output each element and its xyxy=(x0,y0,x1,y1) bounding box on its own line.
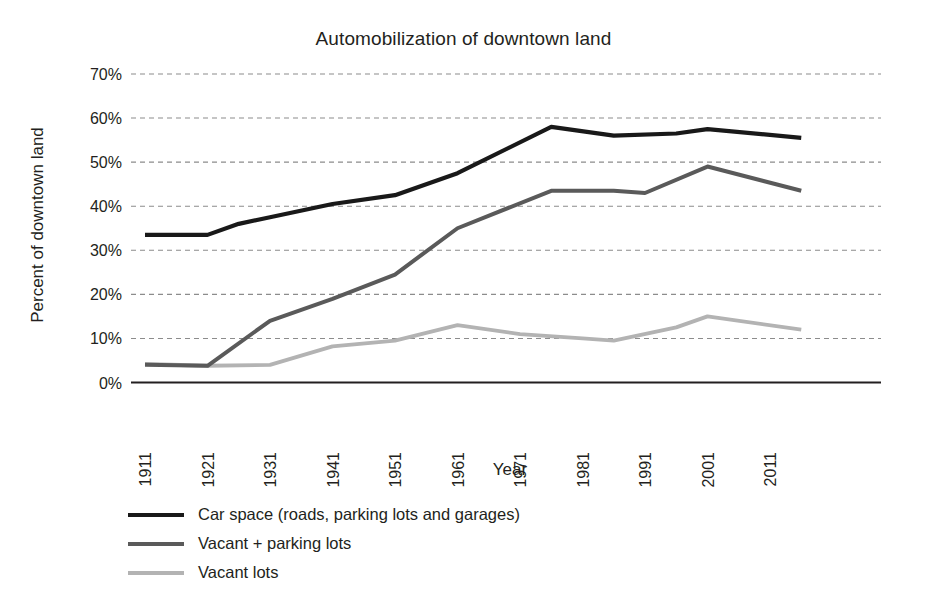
series-line xyxy=(145,127,801,235)
chart-figure: Automobilization of downtown land Percen… xyxy=(0,0,927,600)
y-tick-label: 40% xyxy=(90,198,122,215)
y-tick-label: 70% xyxy=(90,66,122,83)
y-tick-labels: 0%10%20%30%40%50%60%70% xyxy=(90,66,122,392)
legend-label: Car space (roads, parking lots and garag… xyxy=(198,505,520,524)
x-axis-label: Year xyxy=(130,460,890,480)
legend-swatch-line-icon xyxy=(128,571,184,575)
legend-item[interactable]: Vacant + parking lots xyxy=(128,529,828,558)
legend-swatch-line-icon xyxy=(128,542,184,546)
y-tick-label: 30% xyxy=(90,242,122,259)
legend-item[interactable]: Car space (roads, parking lots and garag… xyxy=(128,500,828,529)
gridlines xyxy=(131,74,881,338)
legend-label: Vacant + parking lots xyxy=(198,534,351,553)
legend-item[interactable]: Vacant lots xyxy=(128,558,828,587)
chart-legend: Car space (roads, parking lots and garag… xyxy=(128,500,828,587)
legend-label: Vacant lots xyxy=(198,563,278,582)
y-tick-label: 10% xyxy=(90,330,122,347)
y-tick-label: 50% xyxy=(90,154,122,171)
y-tick-label: 20% xyxy=(90,286,122,303)
y-tick-label: 60% xyxy=(90,110,122,127)
series-lines xyxy=(145,127,801,366)
y-tick-label: 0% xyxy=(99,375,122,392)
series-line xyxy=(145,167,801,366)
legend-swatch-line-icon xyxy=(128,513,184,517)
